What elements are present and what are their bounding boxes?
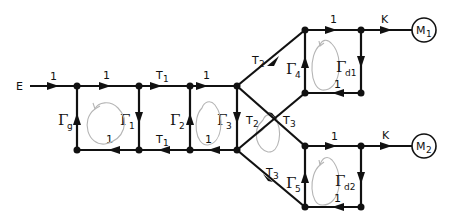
edge-label: K [382, 129, 390, 142]
lower-block [301, 142, 412, 211]
edge-label: 1 [331, 130, 338, 143]
arrow-right-icon [99, 82, 111, 90]
arrow-up-icon [186, 113, 194, 125]
arrow-up-icon [73, 113, 81, 125]
edge-label-sub: 1 [163, 138, 169, 148]
node [358, 90, 365, 97]
arrow-up-icon [301, 56, 309, 68]
node [358, 143, 365, 150]
node [302, 143, 309, 150]
arrow-up-icon [301, 171, 309, 183]
node [302, 27, 309, 34]
output-node-m2: M 2 [412, 134, 436, 158]
arrow-right-icon [196, 82, 208, 90]
arrow-right-icon [380, 26, 392, 34]
node [302, 204, 309, 211]
arrow-right-icon [325, 26, 337, 34]
edge-label: T [265, 166, 273, 179]
edge-label: T [155, 133, 163, 146]
arrow-right-icon [150, 82, 162, 90]
arrow-right-icon [47, 82, 59, 90]
arrow-down-icon [357, 172, 365, 184]
edge-label: 1 [50, 70, 57, 83]
edge-label-sub: 3 [273, 171, 279, 181]
arrow-down-icon [357, 56, 365, 68]
output-label-sub: 2 [426, 145, 432, 155]
edge-label: T [155, 69, 163, 82]
node [187, 83, 194, 90]
arrow-right-icon [325, 142, 337, 150]
loop-label-sub: 1 [129, 121, 135, 131]
edge-label-sub: 3 [290, 119, 296, 129]
edge-label: T [282, 114, 290, 127]
edge-input [30, 82, 77, 90]
signal-flow-graph: E 1 1 T 1 1 1 T 1 1 Γ g Γ 1 Γ 2 Γ 3 [0, 0, 454, 223]
upper-block [301, 26, 412, 97]
arrow-left-icon [208, 146, 220, 154]
node [358, 204, 365, 211]
edge-top-row [77, 82, 237, 90]
edge-label: T [251, 54, 259, 67]
loop-label-sub: d1 [345, 68, 356, 78]
edge-label-sub: 2 [259, 59, 265, 69]
node [136, 147, 143, 154]
node [234, 83, 241, 90]
edge-label-sub: 2 [253, 119, 259, 129]
node [187, 147, 194, 154]
loop-arrows [87, 40, 339, 205]
loop-label-sub: 2 [179, 121, 185, 131]
loop-label-sub: 5 [295, 184, 301, 194]
node [74, 147, 81, 154]
edge-label: 1 [103, 69, 110, 82]
edge-label: K [381, 13, 389, 26]
arrow-down-icon [233, 112, 241, 124]
node [74, 83, 81, 90]
loop-label-sub: 3 [226, 121, 232, 131]
arrow-right-icon [380, 142, 392, 150]
edge-label-sub: 1 [163, 74, 169, 84]
edge-label: 1 [203, 69, 210, 82]
edge-label: 1 [334, 192, 341, 205]
input-label-e: E [16, 80, 23, 93]
output-label-sub: 1 [426, 29, 432, 39]
loop-label-sub: d2 [344, 182, 355, 192]
edge-label: 1 [334, 78, 341, 91]
node [234, 147, 241, 154]
loop-label-sub: 4 [295, 70, 301, 80]
edge-bottom-row [77, 146, 237, 154]
node [136, 83, 143, 90]
edge-label: 1 [330, 13, 337, 26]
output-node-m1: M 1 [412, 18, 436, 42]
edge-label: T [245, 114, 253, 127]
output-label: M [416, 140, 426, 153]
arrow-left-icon [108, 146, 120, 154]
node [358, 27, 365, 34]
arrow-down-icon [135, 112, 143, 124]
output-label: M [416, 24, 426, 37]
loop-label-sub: g [67, 121, 73, 131]
node [302, 90, 309, 97]
